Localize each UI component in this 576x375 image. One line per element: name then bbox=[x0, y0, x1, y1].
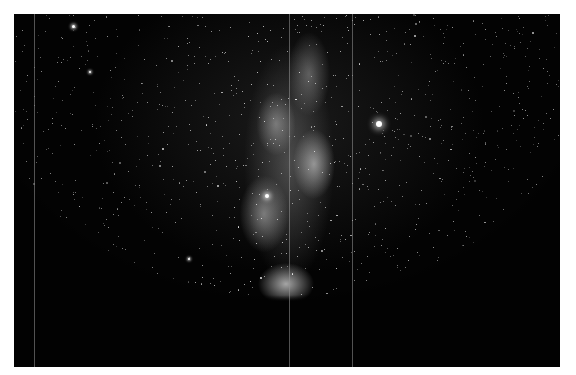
streak-line bbox=[352, 14, 353, 367]
dark-horizon bbox=[14, 14, 560, 367]
streak-line bbox=[289, 14, 290, 367]
streak-line bbox=[34, 14, 35, 367]
milky-way-photo bbox=[14, 14, 560, 367]
